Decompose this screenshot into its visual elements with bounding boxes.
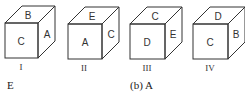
cube-3-top-letter: C xyxy=(151,11,158,22)
cube-1-front-letter: C xyxy=(17,36,24,47)
cube-4-front-letter: C xyxy=(206,37,213,48)
cube-4-right-letter: B xyxy=(233,29,240,40)
cube-2-numeral: II xyxy=(81,63,87,73)
answer-option-b: (b) A xyxy=(130,79,153,91)
cube-4-numeral: IV xyxy=(205,63,215,73)
cube-3-front-letter: D xyxy=(143,37,150,48)
cube-2-top-letter: E xyxy=(89,11,96,22)
answer-option-a: E xyxy=(7,79,14,91)
cube-2-right-letter: C xyxy=(107,29,114,40)
cube-3-numeral: III xyxy=(143,63,152,73)
cube-4-top-letter: D xyxy=(214,11,221,22)
cube-1-right-letter: A xyxy=(44,29,51,40)
cube-1-numeral: I xyxy=(20,62,23,72)
cube-3-right-letter: E xyxy=(170,29,177,40)
cube-1-top-letter: B xyxy=(25,10,32,21)
cube-figure: B C A I E A C II C D E III D C B IV xyxy=(0,0,245,93)
cube-2-front-letter: A xyxy=(82,37,89,48)
